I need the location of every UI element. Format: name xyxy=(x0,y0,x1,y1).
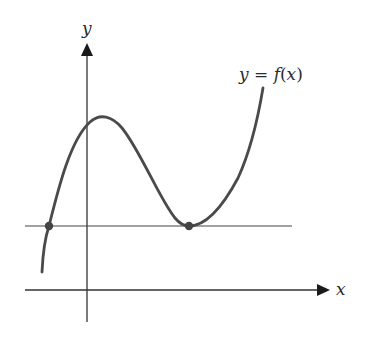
curve-label-x: x xyxy=(287,64,297,84)
curve-label-y: y xyxy=(238,64,249,84)
x-axis-arrow-icon xyxy=(317,284,330,296)
curve-label-open: ( xyxy=(280,64,287,84)
curve-label-eq: = xyxy=(249,64,274,84)
y-axis-arrow-icon xyxy=(81,43,93,56)
right-tangent-point xyxy=(185,222,193,230)
x-axis-label: x xyxy=(336,279,346,299)
left-intersection-point xyxy=(45,222,53,230)
curve-label-close: ) xyxy=(296,64,303,84)
y-axis-label: y xyxy=(81,18,92,38)
curve-f xyxy=(42,88,263,272)
function-graph: y x y = f(x) xyxy=(0,0,373,345)
curve-label: y = f(x) xyxy=(238,64,303,84)
